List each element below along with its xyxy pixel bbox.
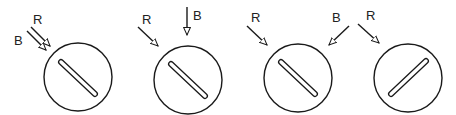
slot-inner [61,62,95,94]
arrow-r-icon [247,26,267,45]
panel-2: RB [138,7,222,114]
panel-3: RB [247,10,349,112]
arrow-b-icon [27,31,46,50]
arrow-b-icon [329,26,349,45]
arrow-r-icon [31,27,50,46]
diagram-canvas: RBRBRBR [0,0,456,115]
label-b: B [193,8,202,23]
label-b: B [14,33,23,48]
slot-inner [391,61,426,94]
polarizer-diagram: RBRBRBR [0,0,456,115]
label-r: R [366,8,375,23]
label-r: R [142,12,151,27]
arrow-r-icon [358,24,379,43]
label-b: B [332,10,341,25]
arrow-r-icon [138,27,158,46]
slot-inner [171,64,205,96]
label-r: R [251,10,260,25]
slot-inner [281,62,315,94]
label-r: R [33,12,42,27]
panel-4: R [358,8,442,112]
panel-1: RB [14,12,112,111]
